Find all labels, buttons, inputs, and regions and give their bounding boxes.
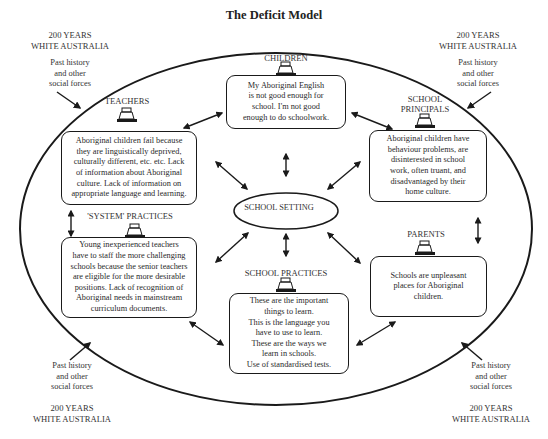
arrow-children-principals [352, 113, 392, 129]
box-line: disadvantaged by their [387, 177, 470, 188]
school-practices-box: These are the important things to learn.… [229, 293, 349, 374]
corner-bottom-right-heading: 200 YEARS WHITE AUSTRALIA [426, 403, 548, 424]
box-line: Aboriginal children fail because [71, 136, 186, 147]
box-line: disinterested in school [387, 155, 470, 166]
teachers-box: Aboriginal children fail because they ar… [61, 131, 197, 205]
parents-label: PARENTS [396, 229, 456, 239]
arrow-system-center [216, 233, 248, 262]
box-line: positions. Lack of recognition of [70, 283, 187, 294]
forces-line: social forces [457, 79, 499, 88]
box-line: behaviour problems, are [387, 145, 470, 156]
box-line: is not good enough for [243, 91, 329, 102]
corner-years: 200 YEARS [470, 403, 513, 413]
arrow-principals-center [328, 162, 360, 189]
children-box: My Aboriginal English is not good enough… [226, 75, 346, 129]
box-line: are eligible for the more desirable [70, 272, 187, 283]
diagram-title: The Deficit Model [0, 8, 548, 23]
box-line: curriculum documents. [70, 304, 187, 315]
principals-label-line1: SCHOOL [408, 94, 442, 104]
box-line: These are the ways we [247, 339, 331, 350]
corner-place: WHITE AUSTRALIA [33, 414, 111, 424]
box-line: appropriate language and learning. [71, 189, 186, 200]
box-line: These are the important [247, 296, 331, 307]
box-line: Use of standardised tests. [247, 360, 331, 371]
corner-top-right-heading: 200 YEARS WHITE AUSTRALIA [413, 30, 543, 51]
hand-icon-principals [415, 114, 435, 128]
principals-label-line2: PRINCIPALS [401, 104, 449, 114]
box-line: home culture. [387, 187, 470, 198]
hand-icon-system [125, 224, 145, 238]
corner-years: 200 YEARS [457, 30, 500, 40]
arrow-top-right-forces [468, 92, 491, 108]
box-line: Aboriginal needs in mainstream [70, 293, 187, 304]
arrow-teachers-center [216, 162, 247, 189]
box-line: have to use to learn. [247, 328, 331, 339]
hand-icon-school-practices [276, 278, 296, 292]
forces-line: Past history [52, 361, 91, 370]
box-line: schools because the senior teachers [70, 262, 187, 273]
forces-line: social forces [49, 79, 91, 88]
school-practices-label: SCHOOL PRACTICES [236, 268, 336, 278]
children-label: CHILDREN [256, 53, 316, 63]
system-practices-label: 'SYSTEM' PRACTICES [80, 211, 180, 221]
box-line: Schools are unpleasant [390, 271, 466, 282]
system-practices-box: Young inexperienced teachers have to sta… [61, 237, 197, 318]
arrow-children-teachers [184, 113, 222, 128]
hand-icon-teachers [117, 108, 137, 122]
box-line: school. I'm not good [243, 102, 329, 113]
forces-line: Past history [50, 58, 89, 67]
corner-bottom-right-forces: Past history and other social forces [446, 361, 536, 393]
box-line: culture. Lack of information on [71, 179, 186, 190]
corner-years: 200 YEARS [51, 403, 94, 413]
box-line: enough to do schoolwork. [243, 113, 329, 124]
forces-line: and other [462, 69, 493, 78]
teachers-label: TEACHERS [97, 96, 157, 106]
principals-box: Aboriginal children have behaviour probl… [369, 130, 487, 202]
corner-place: WHITE AUSTRALIA [439, 41, 517, 51]
arrow-top-left-forces [57, 92, 80, 108]
box-line: of information about Aboriginal [71, 168, 186, 179]
corner-bottom-left-heading: 200 YEARS WHITE AUSTRALIA [7, 403, 137, 424]
box-line: This is the language you [247, 318, 331, 329]
arrow-system-school-practices [190, 322, 223, 345]
box-line: places for Aboriginal [390, 281, 466, 292]
box-line: culturally different, etc. etc. Lack [71, 157, 186, 168]
forces-line: and other [54, 69, 85, 78]
corner-years: 200 YEARS [49, 30, 92, 40]
corner-top-left-forces: Past history and other social forces [25, 58, 115, 90]
forces-line: and other [56, 372, 87, 381]
corner-place: WHITE AUSTRALIA [452, 414, 530, 424]
hand-icon-children [276, 62, 296, 76]
box-line: learn in schools. [247, 349, 331, 360]
forces-line: social forces [51, 382, 93, 391]
school-setting-label: SCHOOL SETTING [232, 203, 326, 212]
corner-top-right-forces: Past history and other social forces [433, 58, 523, 90]
arrow-parents-center [328, 233, 360, 263]
corner-place: WHITE AUSTRALIA [31, 41, 109, 51]
forces-line: and other [475, 372, 506, 381]
arrow-bottom-left-forces [70, 343, 90, 360]
principals-label: SCHOOL PRINCIPALS [395, 94, 455, 114]
box-line: they are linguistically deprived, [71, 147, 186, 158]
box-line: Aboriginal children have [387, 134, 470, 145]
forces-line: Past history [471, 361, 510, 370]
parents-box: Schools are unpleasant places for Aborig… [370, 256, 487, 317]
box-line: things to learn. [247, 307, 331, 318]
forces-line: Past history [458, 58, 497, 67]
arrow-bottom-right-forces [462, 343, 482, 360]
forces-line: social forces [470, 382, 512, 391]
corner-top-left-heading: 200 YEARS WHITE AUSTRALIA [5, 30, 135, 51]
box-line: children. [390, 292, 466, 303]
box-line: My Aboriginal English [243, 81, 329, 92]
hand-icon-parents [415, 241, 435, 255]
arrow-parents-school-practices [357, 322, 395, 345]
box-line: have to staff the more challenging [70, 251, 187, 262]
corner-bottom-left-forces: Past history and other social forces [27, 361, 117, 393]
box-line: Young inexperienced teachers [70, 240, 187, 251]
box-line: work, often truant, and [387, 166, 470, 177]
